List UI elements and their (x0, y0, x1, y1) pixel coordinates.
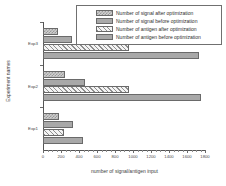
legend-item: Number of signal after optimization (81, 9, 218, 17)
x-tick-label: 1200 (146, 154, 155, 159)
x-tick (66, 150, 67, 152)
bar (43, 79, 85, 86)
x-tick (120, 150, 121, 152)
x-tick (84, 150, 85, 152)
x-tick-label: 1000 (128, 154, 137, 159)
x-tick (142, 150, 143, 152)
x-tick (43, 150, 44, 153)
x-tick (79, 150, 80, 153)
x-tick (147, 150, 148, 152)
x-tick (169, 150, 170, 153)
x-tick (52, 150, 53, 152)
x-tick (57, 150, 58, 152)
x-tick (151, 150, 152, 153)
bar (43, 36, 72, 43)
x-tick (97, 150, 98, 153)
bar (43, 113, 59, 120)
legend-label: Number of antigen after optimization (116, 26, 197, 32)
x-tick (183, 150, 184, 152)
y-tick (40, 22, 43, 23)
x-tick-label: 800 (112, 154, 119, 159)
x-tick (61, 150, 62, 153)
x-tick (129, 150, 130, 152)
x-tick (115, 150, 116, 153)
bar (43, 86, 129, 93)
x-tick (192, 150, 193, 152)
y-tick-label-exp2: Exp2 (20, 84, 38, 89)
legend-swatch-icon (96, 26, 113, 32)
legend: Number of signal after optimizationNumbe… (76, 5, 222, 45)
x-tick (48, 150, 49, 152)
x-tick (93, 150, 94, 152)
bar (43, 71, 65, 78)
legend-item: Number of signal before optimization (81, 17, 218, 25)
x-tick (70, 150, 71, 152)
legend-swatch-icon (96, 10, 113, 16)
bar (43, 28, 58, 35)
x-axis-title: number of signal/antigen input (43, 168, 206, 174)
x-tick (160, 150, 161, 152)
x-tick-label: 600 (94, 154, 101, 159)
bar-chart: 020040060080010001200140016001800 Exp1Ex… (0, 0, 226, 186)
y-tick (40, 65, 43, 66)
legend-label: Number of signal before optimization (116, 18, 197, 24)
x-tick (201, 150, 202, 152)
y-tick-label-exp3: Exp3 (20, 41, 38, 46)
x-tick-label: 200 (58, 154, 65, 159)
x-tick (75, 150, 76, 152)
y-tick-label-exp1: Exp1 (20, 126, 38, 131)
y-axis-title: Experiment names (5, 51, 11, 111)
legend-swatch-icon (96, 34, 113, 40)
x-tick-label: 400 (76, 154, 83, 159)
legend-label: Number of signal after optimization (116, 10, 193, 16)
legend-item: Number of antigen before optimization (81, 33, 218, 41)
x-tick (165, 150, 166, 152)
x-tick (106, 150, 107, 152)
x-tick (133, 150, 134, 153)
bar (43, 137, 83, 144)
bar (43, 121, 73, 128)
x-tick-label: 1800 (200, 154, 209, 159)
legend-item: Number of antigen after optimization (81, 25, 218, 33)
x-tick (102, 150, 103, 152)
y-tick (40, 107, 43, 108)
legend-label: Number of antigen before optimization (116, 34, 201, 40)
x-tick (124, 150, 125, 152)
x-tick (156, 150, 157, 152)
x-tick (205, 150, 206, 153)
x-tick (111, 150, 112, 152)
x-tick (187, 150, 188, 153)
x-tick (196, 150, 197, 152)
x-tick (138, 150, 139, 152)
legend-swatch-icon (96, 18, 113, 24)
bar (43, 94, 201, 101)
x-tick (174, 150, 175, 152)
bar (43, 52, 199, 59)
x-tick-label: 1400 (164, 154, 173, 159)
x-tick-label: 1600 (182, 154, 191, 159)
x-tick (88, 150, 89, 152)
bar (43, 129, 64, 136)
x-tick-label: 0 (42, 154, 44, 159)
x-tick (178, 150, 179, 152)
